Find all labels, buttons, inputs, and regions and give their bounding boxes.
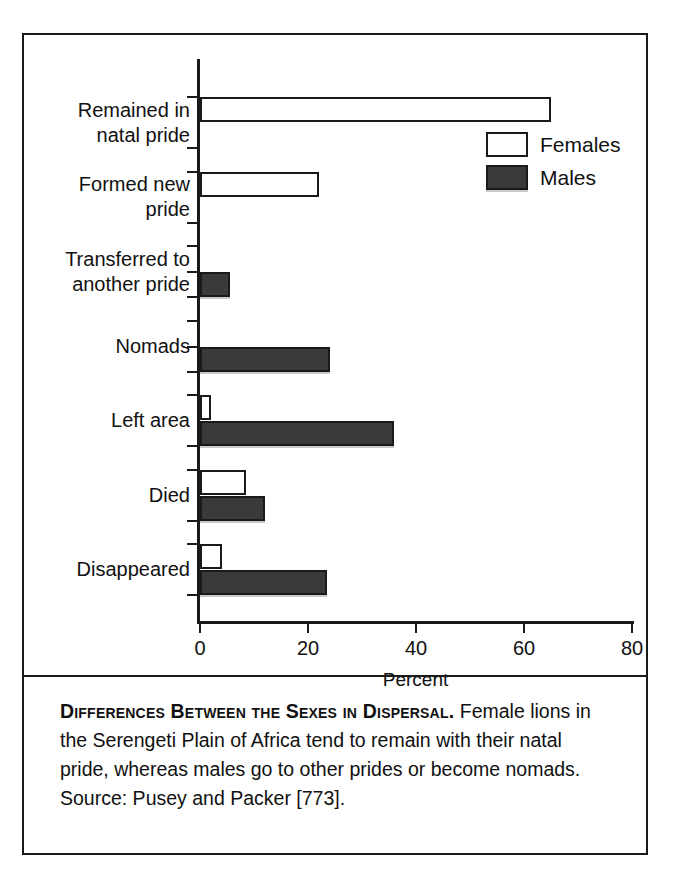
x-axis-tick [199, 621, 201, 633]
figure-frame: 020406080 Percent Remained in natal prid… [22, 33, 648, 855]
bar-females [200, 172, 319, 197]
x-axis-tick [523, 621, 525, 633]
x-axis-tick [415, 621, 417, 633]
x-axis-tick-label: 80 [621, 636, 643, 660]
figure-caption: Differences Between the Sexes in Dispers… [60, 697, 614, 813]
caption-title: Differences Between the Sexes in Dispers… [60, 700, 454, 722]
x-axis-tick-label: 20 [297, 636, 319, 660]
y-axis-tick [187, 171, 198, 173]
y-axis-tick [187, 543, 198, 545]
category-label: Transferred to another pride [0, 247, 190, 297]
y-axis-tick [187, 469, 198, 471]
bar-females [200, 544, 222, 569]
category-label: Disappeared [0, 557, 190, 582]
legend-item-females: Females [486, 132, 646, 157]
bar-males [200, 496, 265, 521]
y-axis-tick [187, 320, 198, 322]
x-axis-tick [307, 621, 309, 633]
y-axis-tick [187, 96, 198, 98]
chart-plot-area: 020406080 Percent Remained in natal prid… [24, 35, 650, 635]
bar-males [200, 570, 327, 595]
category-label: Died [0, 483, 190, 508]
y-axis-tick [187, 594, 198, 596]
x-axis-tick-label: 40 [405, 636, 427, 660]
x-axis-tick-label: 0 [194, 636, 205, 660]
category-label: Nomads [0, 334, 190, 359]
y-axis-tick [187, 371, 198, 373]
y-axis-tick [187, 147, 198, 149]
bar-females [200, 395, 211, 420]
x-axis-tick-label: 60 [513, 636, 535, 660]
y-axis-tick [187, 271, 198, 273]
x-axis-tick [631, 621, 633, 633]
legend-swatch-females-icon [486, 132, 528, 157]
y-axis-tick [187, 520, 198, 522]
y-axis-line [197, 59, 200, 623]
bar-females [200, 97, 551, 122]
chart-legend: Females Males [486, 132, 646, 198]
bar-males [200, 347, 330, 372]
bar-females [200, 470, 246, 495]
category-label: Remained in natal pride [0, 98, 190, 148]
y-axis-tick [187, 346, 198, 348]
bar-males [200, 421, 394, 446]
y-axis-tick [187, 445, 198, 447]
y-axis-tick [187, 394, 198, 396]
legend-label-males: Males [540, 166, 596, 190]
category-label: Formed new pride [0, 172, 190, 222]
category-label: Left area [0, 408, 190, 433]
y-axis-tick [187, 245, 198, 247]
legend-swatch-males-icon [486, 165, 528, 190]
caption-divider [24, 675, 646, 677]
y-axis-tick [187, 222, 198, 224]
legend-item-males: Males [486, 165, 646, 190]
legend-label-females: Females [540, 133, 621, 157]
x-axis-title: Percent [197, 669, 634, 691]
y-axis-tick [187, 296, 198, 298]
bar-males [200, 272, 230, 297]
